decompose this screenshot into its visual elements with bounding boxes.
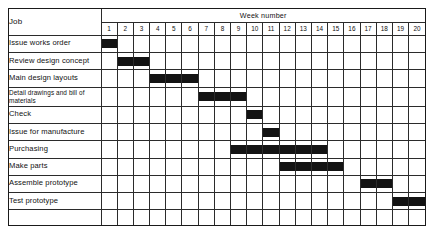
gantt-empty-cell xyxy=(117,35,133,52)
gantt-empty-cell xyxy=(198,192,214,209)
gantt-bar-fill xyxy=(280,145,295,154)
week-number-cell: 9 xyxy=(231,22,247,35)
gantt-bar-fill xyxy=(118,57,133,66)
gantt-bar-segment xyxy=(311,141,327,158)
gantt-empty-cell xyxy=(328,35,344,52)
gantt-empty-cell xyxy=(311,106,327,123)
gantt-empty-cell xyxy=(344,53,360,70)
gantt-empty-cell xyxy=(247,35,263,52)
gantt-empty-cell xyxy=(311,210,327,225)
gantt-empty-cell xyxy=(150,35,166,52)
gantt-empty-cell xyxy=(360,106,376,123)
gantt-empty-cell xyxy=(328,192,344,209)
gantt-empty-cell xyxy=(360,192,376,209)
gantt-empty-cell xyxy=(231,175,247,192)
gantt-chart-frame: JobWeek number12345678910111213141516171… xyxy=(8,8,426,226)
gantt-bar-fill xyxy=(199,92,214,101)
job-label: Issue works order xyxy=(9,35,101,52)
gantt-empty-cell xyxy=(376,87,392,106)
job-column-header: Job xyxy=(9,9,101,35)
gantt-empty-cell xyxy=(182,35,198,52)
gantt-empty-cell xyxy=(328,124,344,141)
gantt-empty-cell xyxy=(133,175,149,192)
gantt-table: JobWeek number12345678910111213141516171… xyxy=(9,9,425,225)
gantt-empty-cell xyxy=(198,124,214,141)
gantt-empty-cell xyxy=(409,124,425,141)
table-row: Detail drawings and bill of materials xyxy=(9,87,425,106)
gantt-empty-cell xyxy=(328,70,344,87)
week-number-cell: 17 xyxy=(360,22,376,35)
gantt-empty-cell xyxy=(409,87,425,106)
gantt-empty-cell xyxy=(279,106,295,123)
gantt-empty-cell xyxy=(328,53,344,70)
job-label xyxy=(9,210,101,225)
gantt-bar-segment xyxy=(392,192,408,209)
gantt-empty-cell xyxy=(214,70,230,87)
gantt-empty-cell xyxy=(182,106,198,123)
gantt-empty-cell xyxy=(198,70,214,87)
table-row: Make parts xyxy=(9,158,425,175)
gantt-empty-cell xyxy=(392,158,408,175)
gantt-bar-holder xyxy=(280,159,295,175)
gantt-empty-cell xyxy=(295,175,311,192)
gantt-empty-cell xyxy=(392,70,408,87)
gantt-bar-fill xyxy=(409,197,425,206)
gantt-empty-cell xyxy=(311,35,327,52)
gantt-empty-cell xyxy=(198,175,214,192)
job-label: Purchasing xyxy=(9,141,101,158)
gantt-bar-holder xyxy=(231,141,246,157)
gantt-empty-cell xyxy=(409,53,425,70)
week-number-group-header: Week number xyxy=(101,9,425,22)
gantt-empty-cell xyxy=(166,35,182,52)
gantt-bar-fill xyxy=(215,92,230,101)
gantt-empty-cell xyxy=(117,124,133,141)
gantt-empty-cell xyxy=(392,175,408,192)
week-number-cell: 18 xyxy=(376,22,392,35)
gantt-empty-cell xyxy=(311,87,327,106)
gantt-empty-cell xyxy=(150,175,166,192)
table-row: Assemble prototype xyxy=(9,175,425,192)
gantt-empty-cell xyxy=(263,210,279,225)
gantt-empty-cell xyxy=(150,158,166,175)
gantt-empty-cell xyxy=(214,124,230,141)
table-row: Issue for manufacture xyxy=(9,124,425,141)
job-label: Assemble prototype xyxy=(9,175,101,192)
gantt-empty-cell xyxy=(279,35,295,52)
gantt-bar-segment xyxy=(231,87,247,106)
gantt-empty-cell xyxy=(133,70,149,87)
gantt-empty-cell xyxy=(409,106,425,123)
gantt-bar-holder xyxy=(312,141,327,157)
gantt-empty-cell xyxy=(150,87,166,106)
gantt-bar-segment xyxy=(311,158,327,175)
gantt-bar-fill xyxy=(393,197,408,206)
gantt-empty-cell xyxy=(279,124,295,141)
gantt-empty-cell xyxy=(311,53,327,70)
gantt-bar-segment xyxy=(117,53,133,70)
gantt-bar-segment xyxy=(263,124,279,141)
gantt-empty-cell xyxy=(133,192,149,209)
gantt-empty-cell xyxy=(101,70,117,87)
table-row: Issue works order xyxy=(9,35,425,52)
gantt-empty-cell xyxy=(117,158,133,175)
gantt-bar-holder xyxy=(150,70,165,86)
week-number-cell: 6 xyxy=(182,22,198,35)
week-number-cell: 7 xyxy=(198,22,214,35)
gantt-bar-segment xyxy=(198,87,214,106)
gantt-empty-cell xyxy=(150,192,166,209)
gantt-bar-fill xyxy=(361,179,376,188)
gantt-bar-fill xyxy=(296,162,311,171)
gantt-empty-cell xyxy=(392,87,408,106)
gantt-empty-cell xyxy=(376,210,392,225)
gantt-empty-cell xyxy=(231,124,247,141)
gantt-empty-cell xyxy=(247,124,263,141)
gantt-bar-holder xyxy=(263,124,278,140)
gantt-empty-cell xyxy=(311,124,327,141)
gantt-empty-cell xyxy=(182,53,198,70)
gantt-empty-cell xyxy=(392,53,408,70)
gantt-empty-cell xyxy=(295,124,311,141)
gantt-empty-cell xyxy=(263,106,279,123)
gantt-empty-cell xyxy=(101,175,117,192)
table-row: Check xyxy=(9,106,425,123)
gantt-empty-cell xyxy=(263,87,279,106)
job-label: Check xyxy=(9,106,101,123)
